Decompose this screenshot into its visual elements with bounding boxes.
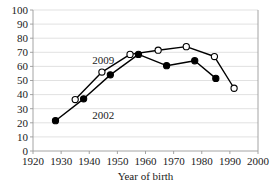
y-tick-label: 20 — [17, 117, 29, 129]
y-tick-label: 100 — [12, 4, 29, 16]
y-tick-label: 10 — [17, 131, 29, 143]
data-point-2009-2 — [127, 51, 133, 57]
data-point-2009-3 — [155, 47, 161, 53]
y-tick-label: 70 — [17, 46, 29, 58]
data-point-2002-2 — [107, 72, 113, 78]
y-tick-label: 40 — [17, 88, 29, 100]
x-tick-label: 1930 — [50, 155, 73, 167]
x-tick-label: 1990 — [219, 155, 242, 167]
y-tick-label: 60 — [17, 60, 29, 72]
x-axis-tick-labels: 192019301940195019601970198019902000 — [22, 155, 270, 167]
data-point-2002-6 — [213, 75, 219, 81]
x-axis-title: Year of birth — [118, 170, 174, 182]
line-chart: 0102030405060708090100 19201930194019501… — [0, 0, 276, 191]
data-point-2002-3 — [135, 51, 141, 57]
x-tick-label: 1920 — [22, 155, 45, 167]
x-tick-label: 1950 — [106, 155, 129, 167]
x-tick-label: 1980 — [191, 155, 214, 167]
x-tick-label: 1940 — [78, 155, 101, 167]
y-tick-label: 80 — [17, 32, 29, 44]
series-label-2002: 2002 — [92, 109, 114, 121]
data-point-2009-4 — [183, 44, 189, 50]
data-point-2009-5 — [211, 53, 217, 59]
data-point-2002-5 — [192, 58, 198, 64]
y-tick-label: 90 — [17, 18, 29, 30]
y-tick-label: 50 — [17, 74, 29, 86]
y-tick-label: 30 — [17, 103, 29, 115]
y-axis-tick-labels: 0102030405060708090100 — [12, 4, 29, 157]
data-point-2002-0 — [52, 118, 58, 124]
data-point-2002-1 — [81, 96, 87, 102]
x-tick-label: 1970 — [163, 155, 186, 167]
x-tick-label: 1960 — [135, 155, 158, 167]
x-tick-label: 2000 — [247, 155, 270, 167]
chart-container: 0102030405060708090100 19201930194019501… — [0, 0, 276, 191]
data-point-2009-6 — [231, 85, 237, 91]
data-point-2009-0 — [72, 96, 78, 102]
data-point-2002-4 — [163, 63, 169, 69]
series-label-2009: 2009 — [92, 54, 115, 66]
data-point-2009-1 — [99, 69, 105, 75]
